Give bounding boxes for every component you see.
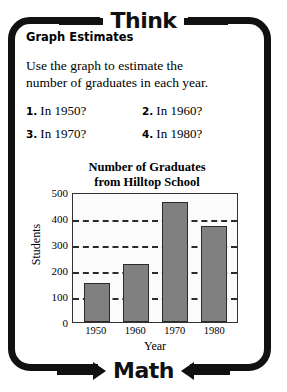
question-item-1: 1.In 1950? [26,103,142,119]
y-axis-ticks: 0100200300400500 [38,193,68,323]
question-number-2: 2. [142,105,153,117]
bar-1970 [162,202,188,322]
think-rule-right [184,18,228,25]
question-item-4: 4.In 1980? [142,126,258,142]
prompt-text: Use the graph to estimate the number of … [26,58,260,91]
question-text-1: In 1950? [40,103,86,118]
x-axis-label: Year [72,339,238,354]
x-tick-label: 1980 [197,325,231,336]
x-tick-label: 1970 [158,325,192,336]
y-tick-label: 300 [52,239,69,251]
bar-1960 [123,264,149,323]
arrow-right-icon [57,362,106,380]
question-row: 1.In 1950? 2.In 1960? [26,103,258,119]
arrow-left-tail [194,368,230,375]
chart-plot-area: Students 0100200300400500 19501960197019… [16,193,260,353]
bar-1980 [201,226,227,322]
arrow-right-head [93,362,106,380]
worksheet-page: Think Graph Estimates Use the graph to e… [0,0,287,392]
plot-canvas [72,193,238,323]
math-label: Math [106,360,181,382]
y-tick-label: 500 [52,187,69,199]
chart-title: Number of Graduates from Hilltop School [34,160,260,189]
question-text-4: In 1980? [156,126,202,141]
chart-title-line-1: Number of Graduates [34,160,260,175]
y-tick-label: 400 [52,213,69,225]
arrow-left-head [181,362,194,380]
section-heading: Graph Estimates [26,30,260,44]
question-number-3: 3. [26,128,37,140]
x-tick-label: 1950 [79,325,113,336]
bar-series [73,194,237,322]
question-text-3: In 1970? [40,126,86,141]
bar-1950 [84,283,110,322]
y-tick-label: 0 [63,317,69,329]
arrow-left-icon [181,362,230,380]
think-label: Think [104,10,182,32]
question-item-2: 2.In 1960? [142,103,258,119]
prompt-line-2: number of graduates in each year. [26,75,260,92]
question-number-4: 4. [142,128,153,140]
x-axis-ticks: 1950196019701980 [72,325,238,336]
y-tick-label: 100 [52,291,69,303]
prompt-line-1: Use the graph to estimate the [26,58,260,75]
lesson-content: Graph Estimates Use the graph to estimat… [22,30,260,149]
x-tick-label: 1960 [118,325,152,336]
math-banner: Math [0,354,287,388]
question-item-3: 3.In 1970? [26,126,142,142]
y-tick-label: 200 [52,265,69,277]
bar-chart: Number of Graduates from Hilltop School … [16,160,260,353]
arrow-right-tail [57,368,93,375]
question-row: 3.In 1970? 4.In 1980? [26,126,258,142]
question-grid: 1.In 1950? 2.In 1960? 3.In 1970? 4.In 19… [26,103,258,142]
think-rule-left [59,18,103,25]
question-text-2: In 1960? [156,103,202,118]
question-number-1: 1. [26,105,37,117]
